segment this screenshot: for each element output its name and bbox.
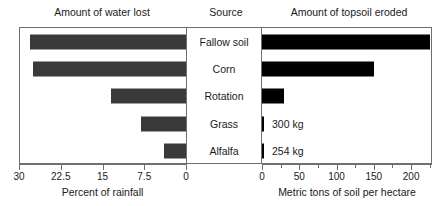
bar-row [262,28,431,55]
axis-tick-label: 150 [354,171,394,182]
plot-area-topsoil-eroded: 300 kg 254 kg [262,27,432,164]
x-axis-topsoil-eroded [262,164,432,170]
axis-tick [374,164,375,170]
bar-water-alfalfa [164,144,186,159]
axis-tick-label: 7.5 [124,171,164,182]
bar-water-grass [141,116,186,131]
panel-header-topsoil-eroded: Amount of topsoil eroded [266,6,432,18]
source-label: Rotation [187,90,261,102]
axis-tick [299,164,300,170]
axis-tick-label: 15 [83,171,123,182]
bar-value-label-alfalfa: 254 kg [272,145,304,157]
bar-row: 254 kg [262,138,431,165]
axis-tick [19,164,20,170]
x-axis-title-topsoil-eroded: Metric tons of soil per hectare [262,186,432,198]
source-label: Fallow soil [187,36,261,48]
paired-bar-chart: Amount of water lost Source Amount of to… [0,0,442,206]
x-axis-title-water-lost: Percent of rainfall [19,186,186,198]
axis-tick-label: 0 [242,171,282,182]
axis-tick [61,164,62,170]
axis-line [262,164,432,165]
source-row: Alfalfa [187,138,261,165]
panel-header-water-lost: Amount of water lost [19,6,185,18]
axis-tick-minor [430,164,431,168]
bar-soil-corn [262,62,374,77]
bar-row [20,138,186,165]
bar-row [20,110,186,137]
axis-tick [337,164,338,170]
panel-header-source: Source [190,6,262,18]
axis-tick-minor [355,164,356,168]
source-label-column: Fallow soil Corn Rotation Grass Alfalfa [186,27,262,164]
bar-row [262,55,431,82]
axis-tick [186,164,187,170]
axis-tick-label: 50 [279,171,319,182]
axis-tick-minor [392,164,393,168]
bar-row [20,83,186,110]
bar-soil-grass [262,116,264,131]
source-row: Fallow soil [187,28,261,55]
bar-water-rotation [111,89,186,104]
bar-row: 300 kg [262,110,431,137]
axis-tick-minor [318,164,319,168]
axis-tick-label: 22.5 [41,171,81,182]
bar-value-label-grass: 300 kg [272,118,304,130]
bar-soil-fallow-soil [262,34,430,49]
x-axis-water-lost [19,164,186,170]
axis-tick-label: 0 [166,171,206,182]
bar-row [20,28,186,55]
axis-tick-label: 30 [0,171,39,182]
axis-tick-label: 100 [317,171,357,182]
bar-row [20,55,186,82]
bar-row [262,83,431,110]
source-row: Rotation [187,83,261,110]
bar-soil-alfalfa [262,144,264,159]
axis-tick [103,164,104,170]
axis-tick-label: 200 [391,171,431,182]
source-row: Grass [187,110,261,137]
bar-water-corn [33,62,186,77]
axis-tick [411,164,412,170]
bar-soil-rotation [262,89,284,104]
plot-area-water-lost [19,27,186,164]
axis-tick [144,164,145,170]
source-row: Corn [187,55,261,82]
axis-tick-minor [281,164,282,168]
source-label: Alfalfa [187,145,261,157]
axis-tick [262,164,263,170]
bar-water-fallow-soil [30,34,186,49]
source-label: Corn [187,63,261,75]
source-label: Grass [187,118,261,130]
